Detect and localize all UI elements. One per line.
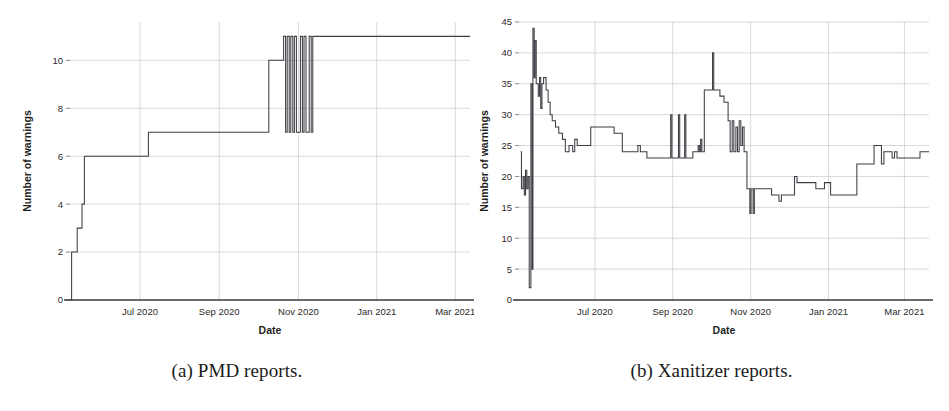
- subfigure-pmd: 0246810Jul 2020Sep 2020Nov 2020Jan 2021M…: [0, 0, 474, 411]
- data-series-line: [521, 28, 929, 287]
- x-tick-label: Jul 2020: [577, 306, 613, 317]
- data-series-line: [70, 36, 470, 300]
- y-tick-label: 6: [58, 151, 63, 162]
- figure-row: 0246810Jul 2020Sep 2020Nov 2020Jan 2021M…: [0, 0, 949, 411]
- y-tick-label: 2: [58, 246, 63, 257]
- x-tick-label: Sep 2020: [652, 306, 693, 317]
- x-tick-label: Mar 2021: [435, 306, 474, 317]
- subfigure-xanitizer: 051015202530354045Jul 2020Sep 2020Nov 20…: [474, 0, 949, 411]
- y-tick-label: 20: [501, 171, 512, 182]
- y-tick-label: 4: [58, 199, 63, 210]
- y-tick-label: 40: [501, 47, 512, 58]
- plot-area-pmd: 0246810Jul 2020Sep 2020Nov 2020Jan 2021M…: [0, 0, 474, 358]
- y-axis-title: Number of warnings: [21, 110, 33, 212]
- x-tick-label: Jan 2021: [809, 306, 848, 317]
- x-tick-label: Nov 2020: [730, 306, 771, 317]
- y-tick-label: 45: [501, 16, 512, 27]
- y-tick-label: 0: [507, 294, 512, 305]
- x-tick-label: Jan 2021: [357, 306, 396, 317]
- y-tick-label: 15: [501, 202, 512, 213]
- caption-pmd: (a) PMD reports.: [172, 360, 303, 382]
- y-tick-label: 8: [58, 103, 63, 114]
- caption-xanitizer: (b) Xanitizer reports.: [630, 360, 792, 382]
- y-tick-label: 10: [501, 233, 512, 244]
- y-axis-title: Number of warnings: [478, 110, 490, 212]
- y-tick-label: 0: [58, 294, 63, 305]
- y-tick-label: 30: [501, 109, 512, 120]
- y-tick-label: 10: [52, 55, 63, 66]
- plot-area-xanitizer: 051015202530354045Jul 2020Sep 2020Nov 20…: [474, 0, 949, 358]
- y-tick-label: 25: [501, 140, 512, 151]
- x-axis-title: Date: [713, 324, 736, 336]
- x-tick-label: Mar 2021: [884, 306, 924, 317]
- chart-pmd: 0246810Jul 2020Sep 2020Nov 2020Jan 2021M…: [0, 0, 474, 358]
- y-tick-label: 5: [507, 264, 512, 275]
- chart-xanitizer: 051015202530354045Jul 2020Sep 2020Nov 20…: [474, 0, 949, 358]
- x-axis-title: Date: [259, 324, 282, 336]
- y-tick-label: 35: [501, 78, 512, 89]
- x-tick-label: Jul 2020: [122, 306, 158, 317]
- x-tick-label: Sep 2020: [199, 306, 240, 317]
- x-tick-label: Nov 2020: [278, 306, 319, 317]
